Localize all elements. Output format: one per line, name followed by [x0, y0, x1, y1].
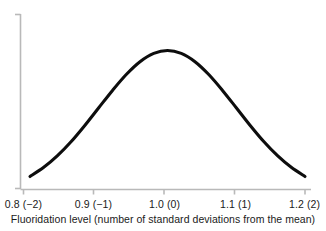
- normal-distribution-curve: [30, 51, 305, 177]
- distribution-plot: [0, 0, 326, 231]
- bell-curve-figure: 0.8 (−2) 0.9 (−1) 1.0 (0) 1.1 (1) 1.2 (2…: [0, 0, 326, 231]
- x-tick-label-1: 0.9 (−1): [53, 198, 134, 210]
- x-tick-label-4: 1.2 (2): [264, 198, 326, 210]
- x-tick-label-2: 1.0 (0): [124, 198, 205, 210]
- x-axis-caption: Fluoridation level (number of standard d…: [0, 213, 326, 225]
